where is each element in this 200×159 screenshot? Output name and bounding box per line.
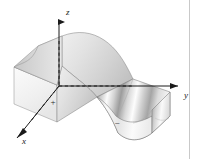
figure-right-border xyxy=(189,0,190,159)
negative-region-label: − xyxy=(114,118,119,128)
y-axis-label: y xyxy=(183,90,188,100)
figure-container: z y x + − xyxy=(0,0,200,159)
z-axis-label: z xyxy=(65,7,70,17)
y-axis-arrowhead xyxy=(170,83,178,89)
surface-plot-svg: z y x + − xyxy=(0,0,200,159)
x-axis-label: x xyxy=(21,136,26,146)
positive-region-label: + xyxy=(50,97,55,107)
